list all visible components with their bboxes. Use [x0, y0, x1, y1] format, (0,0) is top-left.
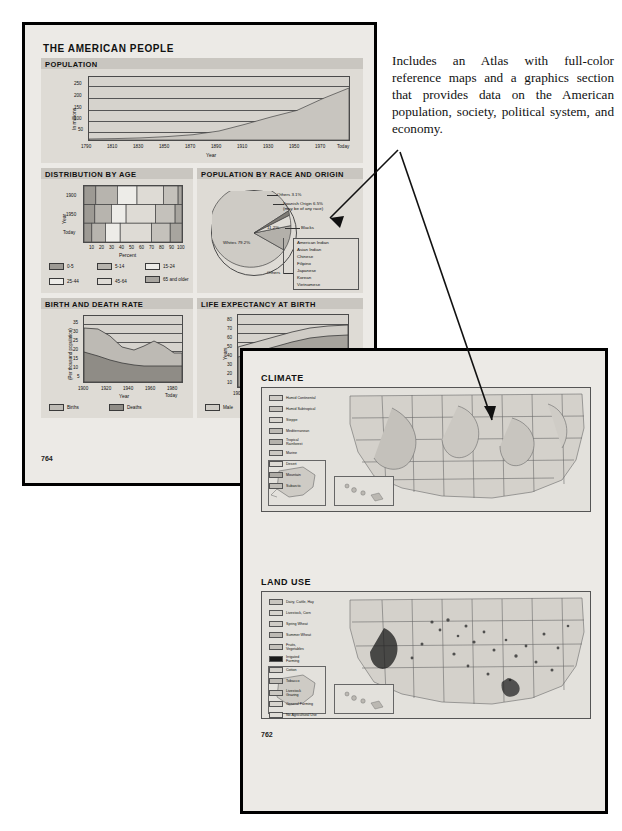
climate-swatch-7: [269, 472, 283, 478]
land-use-swatch-1: [269, 610, 283, 616]
climate-label-3: Mediterranean: [286, 429, 309, 433]
pie-callout-others: Others 3.1%: [277, 192, 301, 197]
climate-swatch-3: [269, 428, 283, 434]
land-use-legend-4: Fruits, Vegetables: [269, 643, 304, 651]
page-number-left: 764: [41, 455, 53, 462]
pie-callout-spanish: Spanish Origin 6.5% (may be of any race): [283, 201, 323, 211]
land-use-legend-1: Livestock, Corn: [269, 610, 311, 616]
legend-label-births: Births: [67, 405, 79, 410]
land-use-swatch-5: [269, 656, 283, 662]
life-expectancy-y-axis-title: Years: [222, 347, 228, 360]
panel-population-title: POPULATION: [41, 58, 363, 69]
annotation-text: Includes an Atlas with full-color refere…: [392, 52, 614, 137]
land-use-swatch-8: [269, 690, 283, 696]
climate-label-1: Humid Subtropical: [286, 407, 315, 411]
page-number-right: 762: [261, 731, 273, 738]
land-use-swatch-3: [269, 632, 283, 638]
climate-swatch-6: [269, 461, 283, 467]
climate-legend-2: Steppe: [269, 417, 297, 423]
legend-swatch-45-64: [97, 278, 112, 285]
pie-callout-others-group: Others: [267, 270, 280, 275]
land-use-legend-6: Cotton: [269, 667, 297, 673]
land-use-map-title: LAND USE: [261, 577, 311, 587]
panel-life-expectancy-title: LIFE EXPECTANCY AT BIRTH: [197, 298, 363, 309]
land-use-swatch-9: [269, 701, 283, 707]
legend-label-5-14: 5-14: [115, 264, 124, 269]
page-762: CLIMATE: [240, 348, 608, 814]
panel-population: POPULATION 250 200 150 100 50 In million…: [41, 58, 363, 163]
land-use-label-7: Tobacco: [286, 679, 299, 683]
climate-legend-0: Humid Continental: [269, 395, 316, 401]
climate-swatch-2: [269, 417, 283, 423]
panel-birth-death-title: BIRTH AND DEATH RATE: [41, 298, 193, 309]
subgroup-asian-indian: Asian Indian: [297, 247, 321, 252]
birth-death-plot: [83, 315, 183, 383]
land-use-swatch-2: [269, 621, 283, 627]
legend-label-65-older: 65 and older: [163, 277, 189, 282]
climate-legend-7: Mountain: [269, 472, 301, 478]
land-use-label-10: No Agricultural Use: [286, 713, 317, 717]
subgroup-american-indian: American Indian: [297, 240, 329, 245]
land-use-label-9: General Farming: [286, 702, 313, 706]
population-x-axis-title: Year: [206, 152, 216, 158]
legend-swatch-0-5: [49, 263, 64, 270]
legend-swatch-male: [205, 404, 220, 411]
population-plot: [88, 76, 350, 141]
legend-item-male: Male: [205, 404, 233, 411]
climate-label-0: Humid Continental: [286, 396, 316, 400]
race-subgroup-box: American Indian Asian Indian Chinese Fil…: [293, 238, 359, 290]
birth-death-y-axis-title: (Per thousand population): [68, 328, 73, 380]
legend-label-0-5: 0-5: [67, 264, 74, 269]
legend-swatch-15-24: [145, 263, 160, 270]
land-use-swatch-4: [269, 644, 283, 650]
panel-race-title: POPULATION BY RACE AND ORIGIN: [197, 168, 363, 179]
climate-legend-3: Mediterranean: [269, 428, 309, 434]
population-y-axis-title: In millions: [71, 108, 77, 130]
legend-item-2: 15-24: [145, 263, 175, 270]
legend-label-45-64: 45-64: [115, 279, 127, 284]
land-use-legend-9: General Farming: [269, 701, 313, 707]
land-use-legend-0: Dairy, Cattle, Hay: [269, 599, 314, 605]
land-use-swatch-10: [269, 712, 283, 718]
legend-item-5: 65 and older: [145, 276, 189, 283]
land-use-label-2: Spring Wheat: [286, 622, 308, 626]
climate-label-6: Desert: [286, 462, 297, 466]
subgroup-korean: Korean: [297, 275, 311, 280]
legend-swatch-5-14: [97, 263, 112, 270]
land-use-legend-10: No Agricultural Use: [269, 712, 317, 718]
land-use-label-5: Irrigated Farming: [286, 655, 299, 663]
legend-swatch-deaths: [109, 404, 124, 411]
climate-label-2: Steppe: [286, 418, 297, 422]
climate-swatch-0: [269, 395, 283, 401]
climate-legend-4: Tropical Rainforest: [269, 438, 302, 446]
panel-birth-death: BIRTH AND DEATH RATE 35 30 25 20 15 10 5…: [41, 298, 193, 418]
distribution-plot: [83, 185, 183, 243]
climate-map-title: CLIMATE: [261, 373, 304, 383]
climate-swatch-1: [269, 406, 283, 412]
pie-callout-blacks: Blacks: [301, 225, 314, 230]
land-use-legend-7: Tobacco: [269, 678, 299, 684]
birth-death-x-axis-title: Year: [119, 393, 129, 399]
pie-callout-blacks-pct: 11.2%: [267, 225, 279, 230]
pie-callout-whites: Whites 79.2%: [223, 240, 250, 245]
legend-item-1: 5-14: [97, 263, 124, 270]
land-use-swatch-7: [269, 678, 283, 684]
distribution-x-axis-title: Percent: [119, 252, 136, 258]
land-use-swatch-6: [269, 667, 283, 673]
legend-label-deaths: Deaths: [127, 405, 142, 410]
distribution-y-axis-title: Year: [61, 214, 67, 224]
legend-label-15-24: 15-24: [163, 264, 175, 269]
land-use-label-0: Dairy, Cattle, Hay: [286, 600, 314, 604]
subgroup-filipino: Filipino: [297, 261, 311, 266]
land-use-swatch-0: [269, 599, 283, 605]
legend-swatch-65-older: [145, 276, 160, 283]
climate-swatch-4: [269, 439, 283, 445]
legend-label-male: Male: [223, 405, 233, 410]
climate-label-4: Tropical Rainforest: [286, 438, 302, 446]
land-use-label-6: Cotton: [286, 668, 297, 672]
legend-label-25-44: 25-44: [67, 279, 79, 284]
legend-swatch-25-44: [49, 278, 64, 285]
climate-legend-6: Desert: [269, 461, 297, 467]
climate-label-5: Marine: [286, 451, 297, 455]
panel-race: POPULATION BY RACE AND ORIGIN Others 3.1…: [197, 168, 363, 293]
